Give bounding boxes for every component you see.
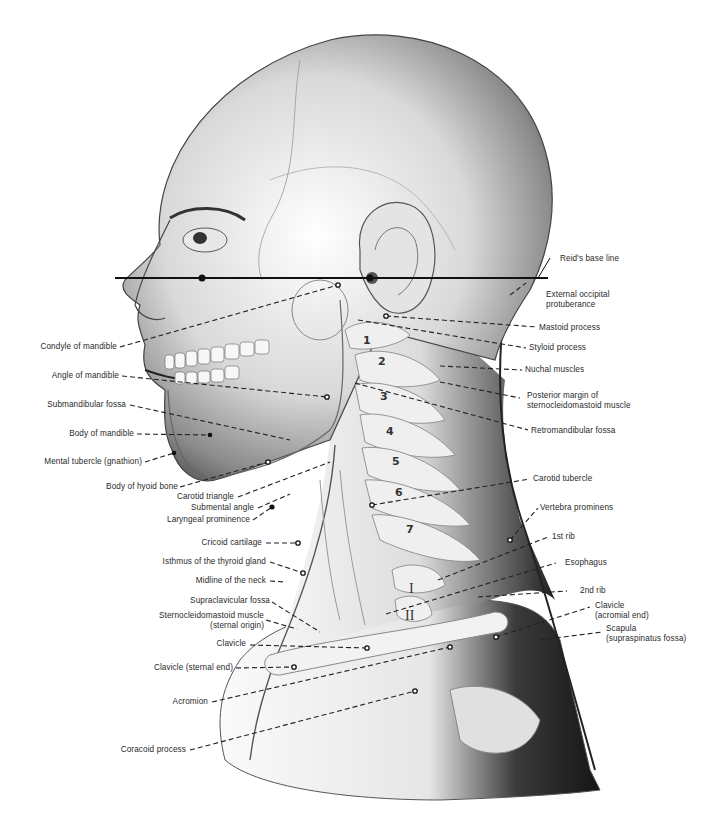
label-vertebra-prominens: Vertebra prominens xyxy=(540,503,613,513)
label-nuchal-muscles: Nuchal muscles xyxy=(525,365,584,375)
label-carotid-triangle: Carotid triangle xyxy=(177,492,234,502)
rib-number: I xyxy=(409,581,414,597)
label-midline-of-neck: Midline of the neck xyxy=(196,576,266,586)
label-condyle-of-mandible: Condyle of mandible xyxy=(40,342,117,352)
head-neck-illustration xyxy=(0,0,720,823)
rib-number: II xyxy=(405,608,414,624)
label-laryngeal-prominence: Laryngeal prominence xyxy=(167,515,250,525)
label-esophagus: Esophagus xyxy=(565,558,607,568)
label-scapula-supraspinatus-fossa: Scapula (supraspinatus fossa) xyxy=(606,624,686,644)
label-mental-tubercle: Mental tubercle (gnathion) xyxy=(44,457,142,467)
vertebra-number: 6 xyxy=(395,486,403,499)
vertebra-number: 1 xyxy=(363,334,371,347)
label-1st-rib: 1st rib xyxy=(552,532,575,542)
label-styloid-process: Styloid process xyxy=(529,343,586,353)
label-isthmus-of-thyroid: Isthmus of the thyroid gland xyxy=(163,557,266,567)
label-external-occipital-protuberance: External occipital protuberance xyxy=(546,290,610,310)
vertebra-number: 4 xyxy=(386,425,394,438)
vertebra-number: 2 xyxy=(378,355,386,368)
label-clavicle: Clavicle xyxy=(217,639,246,649)
label-carotid-tubercle: Carotid tubercle xyxy=(533,474,592,484)
label-clavicle-acromial-end: Clavicle (acromial end) xyxy=(595,601,649,621)
vertebra-number: 5 xyxy=(392,455,400,468)
label-posterior-margin-scm: Posterior margin of sternocleidomastoid … xyxy=(527,391,631,411)
label-supraclavicular-fossa: Supraclavicular fossa xyxy=(190,596,270,606)
label-cricoid-cartilage: Cricoid cartilage xyxy=(202,538,262,548)
label-2nd-rib: 2nd rib xyxy=(580,586,606,596)
label-angle-of-mandible: Angle of mandible xyxy=(52,371,119,381)
label-retromandibular-fossa: Retromandibular fossa xyxy=(531,426,615,436)
label-body-of-mandible: Body of mandible xyxy=(69,429,134,439)
label-body-of-hyoid-bone: Body of hyoid bone xyxy=(106,482,178,492)
label-reids-base-line: Reid's base line xyxy=(560,254,619,264)
label-submental-angle: Submental angle xyxy=(191,503,254,513)
vertebra-number: 3 xyxy=(380,390,388,403)
label-coracoid-process: Coracoid process xyxy=(121,745,186,755)
vertebra-number: 7 xyxy=(406,523,414,536)
label-mastoid-process: Mastoid process xyxy=(539,323,600,333)
label-sternocleidomastoid-sternal-origin: Sternocleidomastoid muscle (sternal orig… xyxy=(159,611,264,631)
label-submandibular-fossa: Submandibular fossa xyxy=(47,400,126,410)
label-clavicle-sternal-end: Clavicle (sternal end) xyxy=(154,663,233,673)
label-acromion: Acromion xyxy=(173,697,208,707)
